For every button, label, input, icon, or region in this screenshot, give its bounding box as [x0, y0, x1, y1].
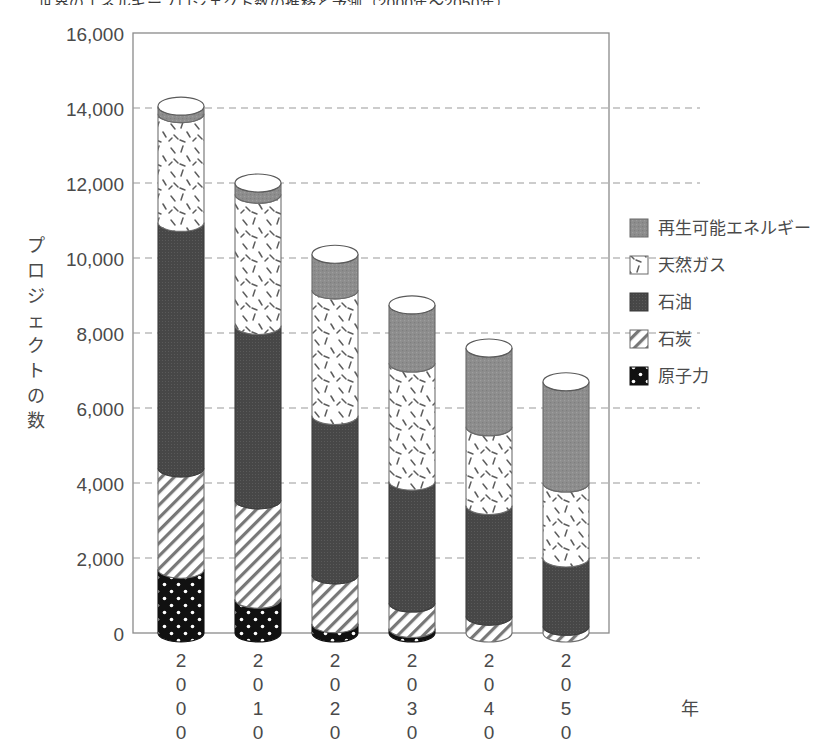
- x-category-2000-digit-3: 0: [176, 722, 187, 743]
- x-category-2010-digit-0: 2: [253, 650, 264, 671]
- bar-segment-2030-石油: [389, 481, 435, 612]
- y-tick-6000: 6,000: [76, 399, 124, 420]
- bar-segment-2000-石炭: [158, 468, 204, 578]
- x-category-2030-digit-3: 0: [407, 722, 418, 743]
- x-category-2050-digit-0: 2: [561, 650, 572, 671]
- legend-swatch-renewable: [630, 219, 648, 237]
- y-tick-16000: 16,000: [66, 24, 124, 45]
- x-category-2000-digit-2: 0: [176, 698, 187, 719]
- bar-2020[interactable]: [312, 245, 358, 642]
- x-category-2020-digit-1: 0: [330, 674, 341, 695]
- bar-2050[interactable]: [543, 373, 589, 642]
- legend-swatch-natural-gas: [630, 256, 648, 274]
- x-category-2040-digit-0: 2: [484, 650, 495, 671]
- legend-label-coal: 石炭: [658, 330, 692, 349]
- bar-2030[interactable]: [389, 296, 435, 642]
- x-axis-categories: 200020102020203020402050: [176, 650, 572, 743]
- y-tick-0: 0: [113, 624, 124, 645]
- x-category-2040-digit-1: 0: [484, 674, 495, 695]
- legend-swatch-nuclear: [630, 367, 648, 385]
- legend-label-natural-gas: 天然ガス: [658, 256, 726, 275]
- x-category-2020-digit-0: 2: [330, 650, 341, 671]
- bar-segment-2000-天然ガス: [158, 114, 204, 232]
- legend-label-renewable: 再生可能エネルギー: [658, 219, 811, 238]
- y-tick-8000: 8,000: [76, 324, 124, 345]
- x-category-2030-digit-0: 2: [407, 650, 418, 671]
- bar-cap-2010: [235, 174, 281, 192]
- bar-segment-2040-石油: [466, 506, 512, 626]
- x-category-2030-digit-2: 3: [407, 698, 418, 719]
- y-tick-4000: 4,000: [76, 474, 124, 495]
- bar-2000[interactable]: [158, 97, 204, 642]
- legend: 再生可能エネルギー 天然ガス 石油 石炭 原子力: [630, 219, 811, 386]
- bar-cap-2040: [466, 339, 512, 357]
- bar-cap-2020: [312, 245, 358, 263]
- bar-segment-2010-石油: [235, 326, 281, 509]
- bar-segment-2030-天然ガス: [389, 363, 435, 490]
- legend-item-oil[interactable]: 石油: [630, 293, 692, 312]
- legend-item-nuclear[interactable]: 原子力: [630, 367, 709, 386]
- x-category-2020-digit-3: 0: [330, 722, 341, 743]
- legend-item-renewable[interactable]: 再生可能エネルギー: [630, 219, 811, 238]
- bar-2010[interactable]: [235, 174, 281, 642]
- y-title-char-5: ト: [27, 361, 45, 381]
- x-category-2000-digit-1: 0: [176, 674, 187, 695]
- y-title-char-7: 数: [27, 411, 45, 431]
- bar-segment-2020-石油: [312, 416, 358, 584]
- x-category-2040-digit-2: 4: [484, 698, 495, 719]
- bar-cap-2000: [158, 97, 204, 115]
- legend-swatch-oil: [630, 293, 648, 311]
- bar-segment-2050-天然ガス: [543, 483, 589, 567]
- y-tick-2000: 2,000: [76, 549, 124, 570]
- bar-2040[interactable]: [466, 339, 512, 642]
- y-title-char-2: ジ: [27, 286, 45, 306]
- x-category-2050-digit-2: 5: [561, 698, 572, 719]
- bar-segment-2050-石油: [543, 558, 589, 635]
- x-category-2030-digit-1: 0: [407, 674, 418, 695]
- y-title-char-0: プ: [27, 236, 45, 256]
- chart-container: 世界のエネルギープロジェクト数の推移と予測（2000年〜2050年）: [0, 0, 825, 743]
- x-axis-title: 年: [681, 699, 699, 719]
- x-category-2050-digit-3: 0: [561, 722, 572, 743]
- y-tick-10000: 10,000: [66, 249, 124, 270]
- x-category-2050-digit-1: 0: [561, 674, 572, 695]
- y-tick-12000: 12,000: [66, 174, 124, 195]
- legend-label-oil: 石油: [658, 293, 692, 312]
- bar-segment-2010-天然ガス: [235, 194, 281, 334]
- x-category-2000-digit-0: 2: [176, 650, 187, 671]
- legend-item-coal[interactable]: 石炭: [630, 330, 692, 349]
- legend-item-natural-gas[interactable]: 天然ガス: [630, 256, 726, 275]
- x-category-2010-digit-1: 0: [253, 674, 264, 695]
- bar-segment-2030-再生可能エネルギー: [389, 305, 435, 372]
- x-category-2010-digit-2: 1: [253, 698, 264, 719]
- bar-segment-2050-再生可能エネルギー: [543, 382, 589, 492]
- y-title-char-1: ロ: [27, 261, 45, 281]
- y-title-char-6: の: [27, 386, 45, 406]
- x-category-2020-digit-2: 2: [330, 698, 341, 719]
- bar-segment-2000-原子力: [158, 569, 204, 642]
- bar-segment-2040-再生可能エネルギー: [466, 348, 512, 436]
- bar-segment-2020-天然ガス: [312, 290, 358, 425]
- legend-swatch-coal: [630, 330, 648, 348]
- bar-cap-2030: [389, 296, 435, 314]
- y-tick-14000: 14,000: [66, 99, 124, 120]
- bar-segment-2010-石炭: [235, 500, 281, 608]
- x-category-2010-digit-3: 0: [253, 722, 264, 743]
- y-title-char-4: ク: [27, 336, 45, 356]
- bar-cap-2050: [543, 373, 589, 391]
- chart-svg: 16,000 14,000 12,000 10,000 8,000 6,000 …: [0, 0, 825, 743]
- y-axis-ticks: 16,000 14,000 12,000 10,000 8,000 6,000 …: [66, 24, 124, 645]
- y-axis-title: プ ロ ジ ェ ク ト の 数: [27, 236, 45, 431]
- bar-segment-2000-石油: [158, 222, 204, 477]
- bar-segment-2040-天然ガス: [466, 427, 512, 515]
- legend-label-nuclear: 原子力: [658, 367, 709, 386]
- x-category-2040-digit-3: 0: [484, 722, 495, 743]
- y-title-char-3: ェ: [27, 311, 45, 331]
